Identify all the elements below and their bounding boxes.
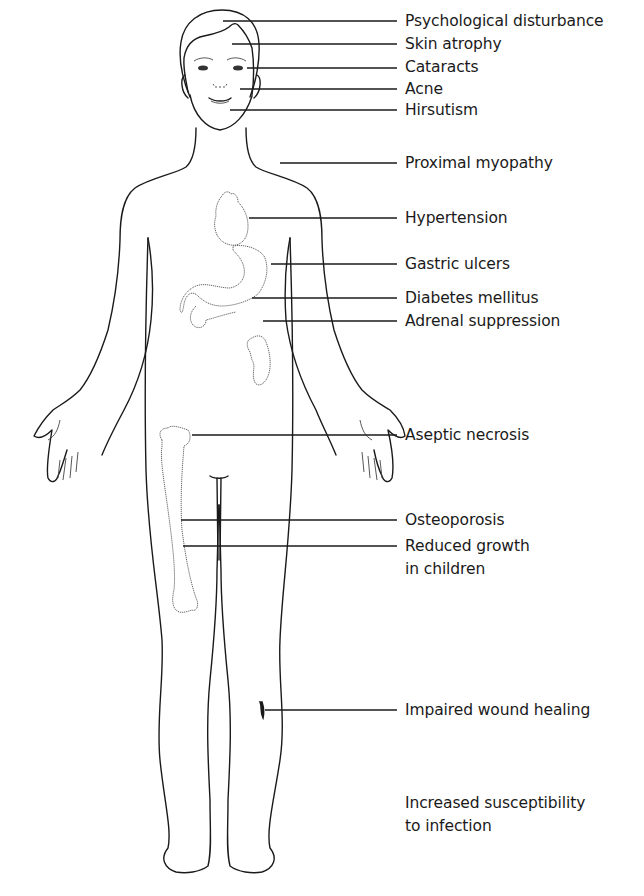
label-gastric-ulcers: Gastric ulcers [405, 254, 510, 274]
label-text: Acne [405, 79, 443, 99]
label-text: Proximal myopathy [405, 153, 553, 173]
stomach-icon [180, 245, 267, 327]
label-text: Hypertension [405, 208, 508, 228]
corticosteroid-adverse-effects-diagram: Psychological disturbanceSkin atrophyCat… [0, 0, 644, 896]
label-diabetes-mellitus: Diabetes mellitus [405, 288, 539, 308]
label-acne: Acne [405, 79, 443, 99]
label-cataracts: Cataracts [405, 57, 479, 77]
label-reduced-growth: Reduced growthin children [405, 536, 530, 579]
label-text: Skin atrophy [405, 34, 502, 54]
label-text-line2: in children [405, 559, 530, 579]
label-adrenal-suppression: Adrenal suppression [405, 311, 560, 331]
label-hypertension: Hypertension [405, 208, 508, 228]
label-text: Reduced growth [405, 536, 530, 556]
wound-icon [260, 702, 264, 718]
head-icon [180, 10, 260, 130]
kidney-icon [247, 336, 270, 385]
human-body-illustration [0, 0, 644, 896]
leader-lines [181, 21, 397, 710]
label-text: Increased susceptibility [405, 793, 585, 813]
label-proximal-myopathy: Proximal myopathy [405, 153, 553, 173]
label-text: Diabetes mellitus [405, 288, 539, 308]
label-text: Gastric ulcers [405, 254, 510, 274]
label-text: Adrenal suppression [405, 311, 560, 331]
label-hirsutism: Hirsutism [405, 100, 478, 120]
label-text: Osteoporosis [405, 510, 504, 530]
label-text: Hirsutism [405, 100, 478, 120]
label-psychological-disturbance: Psychological disturbance [405, 11, 604, 31]
label-text: Psychological disturbance [405, 11, 604, 31]
label-aseptic-necrosis: Aseptic necrosis [405, 425, 529, 445]
label-text-line2: to infection [405, 816, 585, 836]
femur-bone-icon [160, 426, 198, 612]
label-osteoporosis: Osteoporosis [405, 510, 504, 530]
legs-icon [145, 238, 293, 873]
label-skin-atrophy: Skin atrophy [405, 34, 502, 54]
label-text: Cataracts [405, 57, 479, 77]
label-text: Aseptic necrosis [405, 425, 529, 445]
label-increased-susceptibility: Increased susceptibilityto infection [405, 793, 585, 836]
heart-icon [215, 192, 248, 245]
label-text: Impaired wound healing [405, 700, 590, 720]
label-impaired-wound-healing: Impaired wound healing [405, 700, 590, 720]
